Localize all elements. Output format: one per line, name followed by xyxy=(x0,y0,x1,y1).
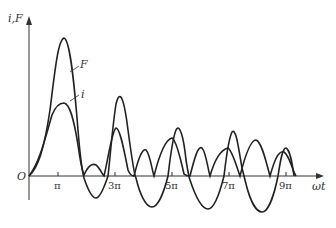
x-tick-9pi: 9π xyxy=(279,180,292,191)
x-ticks xyxy=(58,172,286,176)
x-tick-pi: π xyxy=(54,180,61,191)
series-i-label: i xyxy=(81,88,85,101)
x-axis-arrow-icon xyxy=(316,173,324,179)
waveform-chart: i,F ωt O F i π 3π 5π 7π 9π xyxy=(0,0,336,228)
series-F-curve xyxy=(29,38,294,212)
plot-area xyxy=(0,0,336,228)
series-F-label: F xyxy=(80,58,88,71)
origin-label: O xyxy=(17,170,26,183)
x-tick-5pi: 5π xyxy=(165,180,178,191)
y-axis-label: i,F xyxy=(8,12,23,25)
x-tick-7pi: 7π xyxy=(222,180,235,191)
series-i-curve xyxy=(29,103,296,176)
y-axis-arrow-icon xyxy=(26,16,32,25)
x-axis-label: ωt xyxy=(312,180,325,193)
x-tick-3pi: 3π xyxy=(108,180,121,191)
